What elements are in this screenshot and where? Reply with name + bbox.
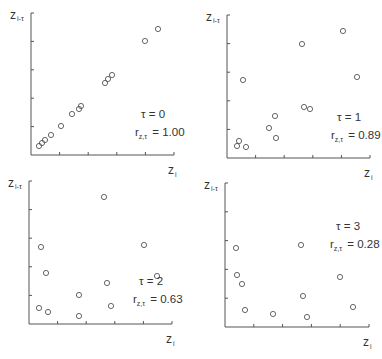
x-axis-label: zi bbox=[168, 163, 177, 178]
data-point bbox=[239, 281, 244, 286]
autocorrelation-scatter-figure: zi-τziτ = 0rz,τ = 1.00zi-τziτ = 1rz,τ = … bbox=[0, 0, 382, 359]
data-point bbox=[234, 272, 239, 277]
data-point bbox=[272, 113, 277, 118]
data-point bbox=[58, 123, 63, 128]
data-point bbox=[240, 77, 245, 82]
data-point bbox=[307, 106, 312, 111]
correlation-annotation: rz,τ = 0.89 bbox=[331, 129, 381, 143]
correlation-annotation: rz,τ = 0.28 bbox=[330, 238, 380, 252]
data-point bbox=[76, 313, 81, 318]
data-point bbox=[236, 138, 241, 143]
data-point bbox=[101, 194, 106, 199]
data-point bbox=[43, 270, 48, 275]
scatter-panel-tau-2: zi-τziτ = 2rz,τ = 0.63 bbox=[8, 176, 183, 347]
data-point bbox=[155, 26, 160, 31]
data-point bbox=[69, 111, 74, 116]
data-point bbox=[298, 242, 303, 247]
data-point bbox=[270, 311, 275, 316]
data-point bbox=[109, 72, 114, 77]
x-axis-label: zi bbox=[166, 332, 175, 347]
data-point bbox=[36, 305, 41, 310]
data-point bbox=[104, 280, 109, 285]
tau-annotation: τ = 1 bbox=[337, 111, 361, 123]
data-point bbox=[38, 244, 43, 249]
data-point bbox=[39, 140, 44, 145]
data-point bbox=[337, 274, 342, 279]
scatter-panel-tau-3: zi-τziτ = 3rz,τ = 0.28 bbox=[204, 178, 380, 350]
tau-annotation: τ = 0 bbox=[141, 108, 165, 120]
data-point bbox=[42, 137, 47, 142]
x-axis-label: zi bbox=[364, 166, 373, 181]
data-point bbox=[350, 304, 355, 309]
scatter-panel-tau-1: zi-τziτ = 1rz,τ = 0.89 bbox=[206, 10, 381, 181]
correlation-annotation: rz,τ = 1.00 bbox=[135, 126, 185, 140]
data-point bbox=[45, 309, 50, 314]
data-point bbox=[105, 76, 110, 81]
y-axis-label: zi-τ bbox=[204, 178, 218, 192]
data-point bbox=[301, 104, 306, 109]
data-point bbox=[266, 125, 271, 130]
data-point bbox=[273, 135, 278, 140]
data-point bbox=[354, 74, 359, 79]
scatter-panel-tau-0: zi-τziτ = 0rz,τ = 1.00 bbox=[10, 8, 185, 178]
y-axis-label: zi-τ bbox=[206, 10, 220, 24]
x-axis-label: zi bbox=[363, 335, 372, 350]
data-point bbox=[242, 307, 247, 312]
data-point bbox=[233, 245, 238, 250]
y-axis-label: zi-τ bbox=[8, 176, 22, 190]
data-point bbox=[141, 242, 146, 247]
data-point bbox=[36, 143, 41, 148]
data-point bbox=[340, 28, 345, 33]
tau-annotation: τ = 3 bbox=[336, 220, 360, 232]
data-point bbox=[243, 144, 248, 149]
data-point bbox=[300, 293, 305, 298]
data-point bbox=[108, 303, 113, 308]
correlation-annotation: rz,τ = 0.63 bbox=[133, 293, 183, 307]
tau-annotation: τ = 2 bbox=[139, 275, 163, 287]
data-point bbox=[48, 132, 53, 137]
data-point bbox=[76, 292, 81, 297]
data-point bbox=[304, 314, 309, 319]
data-point bbox=[234, 143, 239, 148]
data-point bbox=[299, 41, 304, 46]
y-axis-label: zi-τ bbox=[10, 8, 24, 22]
data-point bbox=[142, 38, 147, 43]
